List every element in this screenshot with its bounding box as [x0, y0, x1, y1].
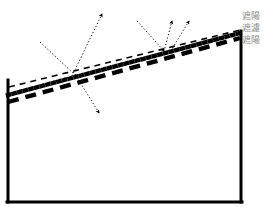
- legend-item-3: 遮陽: [242, 35, 260, 46]
- middle-thick-dotted-shading-line: [8, 33, 240, 95]
- building-section-outline: [7, 31, 242, 202]
- shading-layer-group: [8, 30, 240, 102]
- upper-thin-dashed-shading-line: [9, 30, 240, 87]
- ray-group-left: [40, 14, 102, 113]
- left-reflected-ray-upward: [72, 14, 102, 76]
- diagram-canvas: 遮陽 遮濾 遮陽: [0, 0, 268, 207]
- optical-shading-diagram: [0, 0, 268, 207]
- legend-item-1: 遮陽: [242, 11, 260, 22]
- legend: 遮陽 遮濾 遮陽: [242, 11, 268, 47]
- right-incident-ray: [137, 21, 164, 51]
- lower-thick-dashed-shading-line: [8, 38, 240, 102]
- legend-item-2: 遮濾: [242, 23, 260, 34]
- left-incident-ray: [40, 42, 75, 75]
